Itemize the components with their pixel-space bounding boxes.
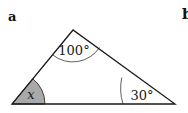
angle-label-top: 100°	[58, 43, 89, 58]
angle-arc-bottom-right	[121, 78, 123, 104]
triangle-figure: 100° 30° x	[0, 0, 188, 113]
angle-label-bottom-right: 30°	[130, 88, 153, 103]
angle-label-x: x	[27, 87, 35, 102]
